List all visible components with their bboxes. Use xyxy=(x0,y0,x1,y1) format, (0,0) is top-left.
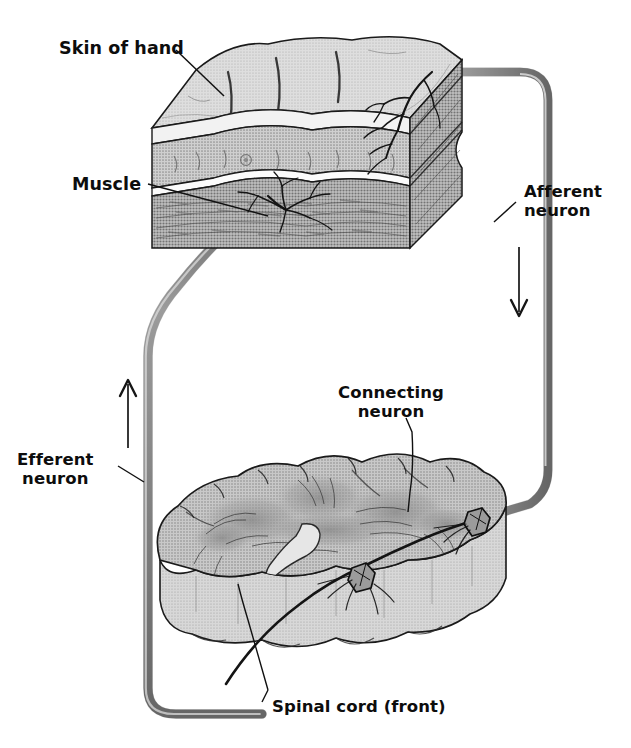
leader-efferent xyxy=(118,466,144,482)
label-connecting-neuron-line1: Connecting xyxy=(338,383,444,402)
label-efferent-neuron-line2: neuron xyxy=(17,469,94,488)
spinal-cord-block xyxy=(157,454,506,647)
label-connecting-neuron-line2: neuron xyxy=(338,402,444,421)
label-afferent-neuron: Afferent neuron xyxy=(524,182,602,221)
efferent-direction-arrow xyxy=(120,380,136,448)
label-skin-of-hand: Skin of hand xyxy=(59,38,184,59)
label-spinal-cord: Spinal cord (front) xyxy=(272,697,446,716)
skin-block xyxy=(152,37,462,248)
reflex-arc-diagram xyxy=(0,0,631,748)
label-muscle: Muscle xyxy=(72,174,141,195)
label-efferent-neuron: Efferent neuron xyxy=(17,450,94,489)
label-connecting-neuron: Connecting neuron xyxy=(338,383,444,422)
afferent-direction-arrow xyxy=(511,247,527,316)
leader-afferent xyxy=(494,202,516,222)
label-afferent-neuron-line1: Afferent xyxy=(524,182,602,201)
leader-spinal-2 xyxy=(262,690,268,702)
label-afferent-neuron-line2: neuron xyxy=(524,201,602,220)
label-efferent-neuron-line1: Efferent xyxy=(17,450,94,469)
